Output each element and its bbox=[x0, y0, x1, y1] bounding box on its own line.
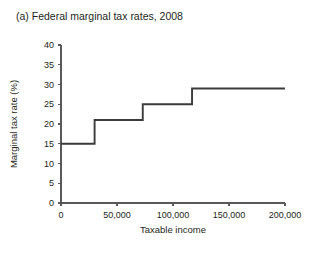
y-axis-tick-label: 40 bbox=[44, 40, 54, 50]
x-axis-tick-label: 200,000 bbox=[269, 210, 302, 220]
x-axis-title: Taxable income bbox=[140, 224, 206, 235]
y-axis-tick-label: 35 bbox=[44, 60, 54, 70]
y-axis-tick-label: 15 bbox=[44, 139, 54, 149]
y-axis-tick-label: 5 bbox=[49, 178, 54, 188]
y-axis-tick-label: 20 bbox=[44, 119, 54, 129]
y-axis-tick-labels: 0510152025303540 bbox=[44, 40, 54, 208]
x-axis-tick-label: 150,000 bbox=[213, 210, 246, 220]
x-axis-tick-label: 50,000 bbox=[103, 210, 131, 220]
y-axis-title: Marginal tax rate (%) bbox=[8, 80, 19, 168]
y-axis-tick-label: 0 bbox=[49, 198, 54, 208]
chart-plot-area: 0510152025303540 050,000100,000150,00020… bbox=[0, 0, 324, 256]
y-axis-tick-label: 30 bbox=[44, 80, 54, 90]
x-axis-tick-label: 0 bbox=[58, 210, 63, 220]
x-axis-tick-label: 100,000 bbox=[157, 210, 190, 220]
x-axis-tick-labels: 050,000100,000150,000200,000 bbox=[58, 210, 301, 220]
figure-panel: (a) Federal marginal tax rates, 2008 051… bbox=[0, 0, 324, 256]
y-axis-tick-label: 25 bbox=[44, 99, 54, 109]
series-line-marginal-tax-rate bbox=[61, 88, 285, 143]
y-axis-tick-label: 10 bbox=[44, 159, 54, 169]
